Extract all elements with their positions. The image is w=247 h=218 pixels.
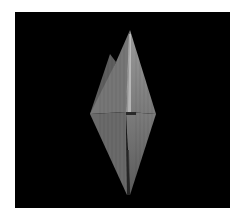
crystal-polyhedron <box>0 0 247 218</box>
center-shadow-mark <box>126 112 136 115</box>
